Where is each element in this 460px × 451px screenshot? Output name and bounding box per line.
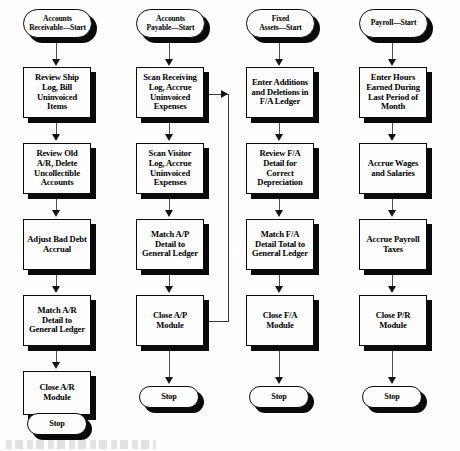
node-label: Fixed Assets—Start bbox=[257, 15, 304, 32]
stop-terminal-fixed-assets[interactable]: Stop bbox=[249, 386, 309, 408]
start-terminal-fixed-assets[interactable]: Fixed Assets—Start bbox=[246, 9, 315, 38]
process-ap-close-module[interactable]: Close A/P Module bbox=[136, 295, 204, 346]
arrowhead-down-icon bbox=[275, 134, 283, 141]
cross-connector-ap-close-to-fa-enter bbox=[204, 94, 229, 322]
stop-terminal-accounts-payable[interactable]: Stop bbox=[139, 386, 199, 408]
process-fa-close-module[interactable]: Close F/A Module bbox=[246, 295, 314, 346]
stop-terminal-accounts-receivable[interactable]: Stop bbox=[27, 413, 87, 435]
node-label: Stop bbox=[47, 419, 66, 428]
process-pr-enter-hours[interactable]: Enter Hours Earned During Last Period of… bbox=[359, 67, 427, 118]
arrowhead-down-icon bbox=[388, 210, 396, 217]
node-label: Scan Receiving Log, Accrue Uninvoiced Ex… bbox=[141, 73, 199, 112]
arrowhead-down-icon bbox=[165, 210, 173, 217]
arrowhead-down-icon bbox=[165, 134, 173, 141]
start-terminal-accounts-receivable[interactable]: Accounts Receivable—Start bbox=[23, 9, 92, 38]
process-ar-close-module[interactable]: Close A/R Module bbox=[23, 371, 91, 415]
arrowhead-down-icon bbox=[388, 59, 396, 66]
process-fa-review-detail-depreciation[interactable]: Review F/A Detail for Correct Depreciati… bbox=[246, 143, 314, 194]
node-label: Stop bbox=[159, 392, 178, 401]
arrowhead-right-icon bbox=[221, 90, 228, 98]
arrowhead-down-icon bbox=[52, 286, 60, 293]
process-pr-accrue-payroll-taxes[interactable]: Accrue Payroll Taxes bbox=[359, 219, 427, 270]
start-terminal-accounts-payable[interactable]: Accounts Payable—Start bbox=[136, 9, 205, 38]
node-label: Match F/A Detail Total to General Ledger bbox=[250, 230, 310, 259]
process-ap-match-detail-to-gl[interactable]: Match A/P Detail to General Ledger bbox=[136, 219, 204, 270]
node-label: Match A/R Detail to General Ledger bbox=[27, 306, 87, 335]
arrowhead-down-icon bbox=[165, 377, 173, 384]
node-label: Review Ship Log, Bill Uninvoiced Items bbox=[33, 73, 81, 112]
node-label: Match A/P Detail to General Ledger bbox=[140, 230, 200, 259]
node-label: Close A/R Module bbox=[37, 383, 76, 402]
process-pr-accrue-wages-salaries[interactable]: Accrue Wages and Salaries bbox=[359, 143, 427, 194]
arrowhead-down-icon bbox=[275, 377, 283, 384]
process-ap-scan-visitor-log[interactable]: Scan Visitor Log, Accrue Uninvoiced Expe… bbox=[136, 143, 204, 194]
connector-fa-step4-to-stop bbox=[279, 346, 280, 380]
node-label: Review F/A Detail for Correct Depreciati… bbox=[255, 149, 304, 188]
node-label: Adjust Bad Debt Accrual bbox=[25, 235, 88, 254]
node-label: Accrue Payroll Taxes bbox=[365, 235, 422, 254]
clipped-caption-artifact bbox=[6, 440, 156, 449]
arrowhead-down-icon bbox=[52, 210, 60, 217]
node-label: Accounts Payable—Start bbox=[145, 15, 197, 32]
process-ar-review-old-ar[interactable]: Review Old A/R, Delete Uncollectible Acc… bbox=[23, 143, 91, 194]
node-label: Stop bbox=[382, 392, 401, 401]
node-label: Enter Hours Earned During Last Period of… bbox=[364, 73, 422, 112]
node-label: Payroll—Start bbox=[369, 19, 419, 28]
process-pr-close-module[interactable]: Close P/R Module bbox=[359, 295, 427, 346]
arrowhead-down-icon bbox=[165, 286, 173, 293]
process-ar-match-detail-to-gl[interactable]: Match A/R Detail to General Ledger bbox=[23, 295, 91, 346]
process-ap-scan-receiving-log[interactable]: Scan Receiving Log, Accrue Uninvoiced Ex… bbox=[136, 67, 204, 118]
node-label: Accrue Wages and Salaries bbox=[366, 159, 420, 178]
process-ar-adjust-bad-debt-accrual[interactable]: Adjust Bad Debt Accrual bbox=[23, 219, 91, 270]
arrowhead-down-icon bbox=[388, 377, 396, 384]
arrowhead-down-icon bbox=[52, 134, 60, 141]
stop-terminal-payroll[interactable]: Stop bbox=[362, 386, 422, 408]
node-label: Enter Additions and Deletions in F/A Led… bbox=[250, 78, 311, 107]
flowchart-canvas: Accounts Receivable—Start Review Ship Lo… bbox=[0, 0, 460, 451]
arrowhead-down-icon bbox=[388, 134, 396, 141]
arrowhead-down-icon bbox=[275, 210, 283, 217]
process-fa-enter-additions-deletions[interactable]: Enter Additions and Deletions in F/A Led… bbox=[246, 67, 314, 118]
arrowhead-down-icon bbox=[275, 59, 283, 66]
node-label: Scan Visitor Log, Accrue Uninvoiced Expe… bbox=[147, 149, 194, 188]
arrowhead-down-icon bbox=[52, 362, 60, 369]
node-label: Close A/P Module bbox=[151, 311, 189, 330]
arrowhead-down-icon bbox=[388, 286, 396, 293]
node-label: Close F/A Module bbox=[261, 311, 300, 330]
start-terminal-payroll[interactable]: Payroll—Start bbox=[359, 9, 428, 38]
arrowhead-down-icon bbox=[275, 286, 283, 293]
connector-ap-step4-to-stop bbox=[169, 346, 170, 380]
process-fa-match-detail-total-to-gl[interactable]: Match F/A Detail Total to General Ledger bbox=[246, 219, 314, 270]
arrowhead-down-icon bbox=[165, 59, 173, 66]
node-label: Review Old A/R, Delete Uncollectible Acc… bbox=[32, 149, 82, 188]
connector-pr-step4-to-stop bbox=[392, 346, 393, 380]
arrowhead-down-icon bbox=[52, 59, 60, 66]
process-ar-review-ship-log[interactable]: Review Ship Log, Bill Uninvoiced Items bbox=[23, 67, 91, 118]
node-label: Close P/R Module bbox=[374, 311, 413, 330]
node-label: Accounts Receivable—Start bbox=[27, 15, 88, 32]
node-label: Stop bbox=[269, 392, 288, 401]
